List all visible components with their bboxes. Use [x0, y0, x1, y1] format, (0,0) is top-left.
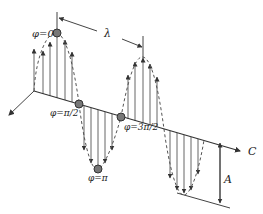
- phase-label-pi: φ=π: [88, 173, 109, 183]
- amplitude-indicator: [177, 143, 230, 208]
- phase-label-pi-half: φ=π/2: [50, 108, 79, 118]
- propagation-axis-label: C: [248, 145, 257, 158]
- propagation-axis: [34, 91, 240, 151]
- phase-dot-0: [53, 29, 61, 37]
- wavelength-indicator: [57, 12, 143, 58]
- wave-diagram: φ=0 φ=π/2 φ=π φ=3π/2 λ A C: [0, 0, 263, 214]
- amplitude-label: A: [223, 173, 232, 186]
- phase-dot-pi-half: [75, 100, 83, 108]
- phase-dot-3pi-half: [117, 113, 125, 121]
- wavelength-label: λ: [103, 27, 111, 40]
- phase-label-3pi-half: φ=3π/2: [124, 122, 159, 132]
- phase-label-0: φ=0: [32, 28, 54, 39]
- transverse-axis-arrow: [9, 91, 34, 115]
- phase-dot-pi: [94, 165, 102, 173]
